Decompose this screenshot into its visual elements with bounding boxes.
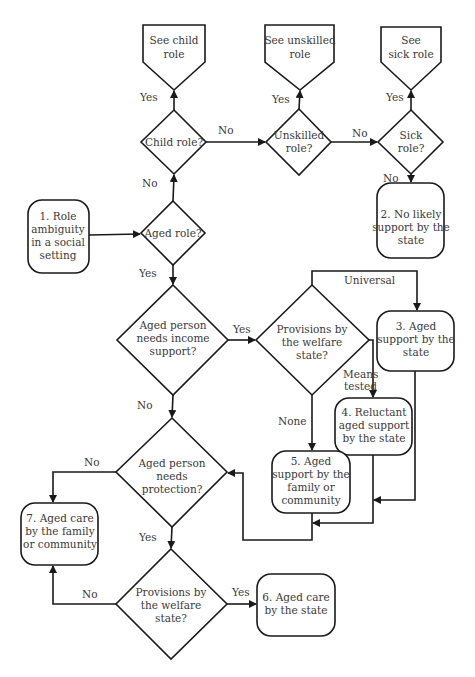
income-support-decision: Aged person needs income support? <box>117 285 228 395</box>
protection-decision: Aged person needs protection? <box>116 418 227 527</box>
flowchart-canvas: See child role See unskilled role See si… <box>0 0 475 677</box>
node-text: needs income <box>136 332 209 344</box>
no-likely-support-node: 2. No likely support by the state <box>372 183 450 258</box>
node-text: See <box>401 34 421 46</box>
state-care-node: 6. Aged care by the state <box>257 574 335 636</box>
node-text: ambiguity <box>31 223 84 235</box>
node-text: 6. Aged care <box>262 591 329 603</box>
node-text: state? <box>155 612 187 624</box>
node-text: support by the <box>377 333 455 345</box>
node-text: family or <box>287 481 335 493</box>
edge-label-protection-yes: Yes <box>138 531 157 543</box>
node-text: 4. Reluctant <box>342 406 408 418</box>
sick-role-decision: Sick role? <box>378 110 443 174</box>
node-text: 7. Aged care <box>26 512 93 524</box>
edge-label-means-tested-2: tested <box>344 380 377 392</box>
edge-label-income-no: No <box>137 399 153 411</box>
family-support-node: 5. Aged support by the family or communi… <box>272 451 350 513</box>
see-sick-role-connector: See sick role <box>381 27 441 90</box>
node-text: Child role? <box>145 136 203 148</box>
node-text: Aged person <box>137 457 205 469</box>
node-text: Aged person <box>138 319 206 331</box>
edge-label-provisions2-yes: Yes <box>231 586 250 598</box>
edge-label-unskilled-yes: Yes <box>271 93 290 105</box>
edge-label-unskilled-no: No <box>352 127 368 139</box>
node-text: setting <box>40 249 77 261</box>
node-text: role? <box>398 142 425 154</box>
node-text: support by the <box>272 468 350 480</box>
node-text: Provisions by <box>277 323 348 335</box>
reluctant-support-node: 4. Reluctant aged support by the state <box>335 398 412 455</box>
edge-label-sick-yes: Yes <box>385 91 404 103</box>
edge-label-sick-no: No <box>383 172 399 184</box>
node-text: the welfare <box>282 336 342 348</box>
child-role-decision: Child role? <box>141 110 206 174</box>
family-care-node: 7. Aged care by the family or community <box>21 503 98 565</box>
node-text: support? <box>150 345 197 357</box>
node-text: by the state <box>343 432 406 444</box>
node-text: role <box>290 48 311 60</box>
edge-label-child-yes: Yes <box>139 91 158 103</box>
node-text: needs <box>156 470 187 482</box>
unskilled-role-decision: Unskilled role? <box>266 109 331 175</box>
node-text: state <box>398 234 424 246</box>
node-text: or community <box>23 538 97 550</box>
node-text: 1. Role <box>39 210 76 222</box>
node-text: the welfare <box>141 599 201 611</box>
node-text: community <box>281 494 340 506</box>
edge-label-protection-no: No <box>84 456 100 468</box>
connector-lines <box>53 91 417 604</box>
node-text: Provisions by <box>136 586 207 598</box>
node-text: Unskilled <box>274 129 325 141</box>
node-text: role? <box>286 142 313 154</box>
node-text: 2. No likely <box>381 208 442 220</box>
edge-label-aged-yes: Yes <box>138 267 157 279</box>
node-text: role <box>164 48 185 60</box>
node-text: by the family <box>25 525 94 537</box>
start-node-role-ambiguity: 1. Role ambiguity in a social setting <box>28 200 89 273</box>
edge-label-universal: Universal <box>344 274 396 286</box>
node-text: See unskilled <box>264 34 336 46</box>
see-unskilled-role-connector: See unskilled role <box>264 25 336 90</box>
edge-label-provisions2-no: No <box>82 588 98 600</box>
state-support-node: 3. Aged support by the state <box>377 311 455 371</box>
edge-label-none: None <box>278 415 307 427</box>
node-text: by the state <box>265 604 328 616</box>
node-text: in a social <box>31 236 85 248</box>
node-text: state <box>403 346 429 358</box>
edge-label-child-no: No <box>218 124 234 136</box>
node-text: protection? <box>142 483 203 495</box>
node-text: aged support <box>339 419 410 431</box>
aged-role-decision: Aged role? <box>141 201 205 265</box>
node-text: state? <box>296 349 328 361</box>
node-text: Aged role? <box>143 227 201 239</box>
node-text: 5. Aged <box>291 455 332 467</box>
edge-label-income-yes: Yes <box>232 323 251 335</box>
node-text: Sick <box>400 129 423 141</box>
welfare-provisions-decision-2: Provisions by the welfare state? <box>116 549 227 659</box>
node-text: support by the <box>372 221 450 233</box>
see-child-role-connector: See child role <box>143 25 205 90</box>
edge-label-aged-no: No <box>142 177 158 189</box>
edge-label-means-tested: Means <box>343 368 378 380</box>
node-text: See child <box>149 34 198 46</box>
node-text: 3. Aged <box>396 320 437 332</box>
node-text: sick role <box>388 48 433 60</box>
